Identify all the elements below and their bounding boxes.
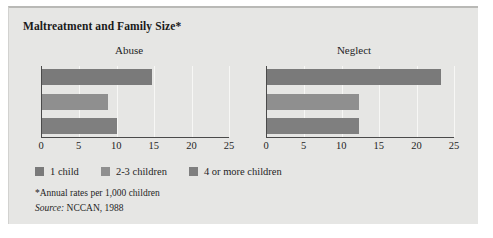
legend-item: 4 or more children: [189, 166, 282, 177]
panel-abuse: Abuse 0510152025: [23, 44, 235, 156]
chart-legend: 1 child2-3 children4 or more children: [35, 166, 282, 177]
gridline: [454, 66, 455, 137]
axis-tick-label: 20: [186, 140, 197, 151]
bar-abuse-series-0: [42, 69, 152, 85]
bar-neglect-series-1: [267, 94, 359, 110]
legend-item-label: 1 child: [50, 166, 79, 177]
axis-tick-label: 15: [149, 140, 160, 151]
axis-tick-label: 25: [449, 140, 460, 151]
source-text: NCCAN, 1988: [64, 203, 123, 213]
axis-tick-label: 0: [38, 140, 43, 151]
gridline: [192, 66, 193, 137]
chart-source: Source: NCCAN, 1988: [35, 203, 124, 213]
axis-tick-label: 5: [76, 140, 81, 151]
chart-footnote: *Annual rates per 1,000 children: [35, 188, 160, 198]
panel-neglect-axis: 0510152025: [266, 140, 454, 154]
axis-tick-label: 0: [263, 140, 268, 151]
bar-neglect-series-0: [267, 69, 441, 85]
legend-swatch-icon: [35, 167, 44, 176]
legend-item-label: 4 or more children: [204, 166, 282, 177]
panel-abuse-axis: 0510152025: [41, 140, 229, 154]
panel-neglect-plot: [266, 66, 454, 138]
gridline: [154, 66, 155, 137]
axis-tick-label: 10: [111, 140, 122, 151]
axis-tick-label: 15: [374, 140, 385, 151]
axis-tick-label: 20: [411, 140, 422, 151]
panel-abuse-title: Abuse: [23, 44, 235, 56]
legend-swatch-icon: [101, 167, 110, 176]
legend-item: 2-3 children: [101, 166, 167, 177]
gridline: [229, 66, 230, 137]
legend-item: 1 child: [35, 166, 79, 177]
source-word: Source:: [35, 203, 64, 213]
page-title: Maltreatment and Family Size*: [23, 20, 181, 32]
chart-figure: Maltreatment and Family Size* Abuse 0510…: [8, 6, 478, 224]
axis-tick-label: 10: [336, 140, 347, 151]
axis-tick-label: 5: [301, 140, 306, 151]
panel-abuse-plot: [41, 66, 229, 138]
bar-abuse-series-1: [42, 94, 108, 110]
panel-neglect-title: Neglect: [248, 44, 460, 56]
axis-tick-label: 25: [224, 140, 235, 151]
bar-abuse-series-2: [42, 118, 117, 134]
panel-neglect: Neglect 0510152025: [248, 44, 460, 156]
legend-swatch-icon: [189, 167, 198, 176]
legend-item-label: 2-3 children: [116, 166, 167, 177]
bar-neglect-series-2: [267, 118, 359, 134]
